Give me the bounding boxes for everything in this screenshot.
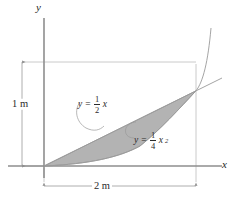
y-axis-label: y (36, 2, 41, 13)
equation-lower-exponent: 2 (165, 138, 168, 145)
equation-upper-variable: x (103, 100, 107, 110)
equation-lower-fraction: 1 4 (150, 131, 156, 150)
equation-upper-lhs: y (78, 100, 82, 110)
equation-label-parabola: y = 1 4 x2 (134, 130, 168, 150)
dimension-label-horizontal: 2 m (92, 181, 112, 192)
equation-upper-numerator: 1 (94, 95, 100, 104)
equation-upper-fraction: 1 2 (94, 95, 100, 114)
equation-label-line: y = 1 2 x (78, 94, 107, 114)
figure-container: y x 1 m 2 m y = 1 2 x y = 1 4 x2 (0, 0, 236, 206)
equation-upper-denominator: 2 (94, 104, 100, 114)
equation-upper-equals: = (84, 100, 91, 110)
equation-lower-denominator: 4 (150, 140, 156, 150)
equation-lower-numerator: 1 (150, 131, 156, 140)
equation-lower-lhs: y (134, 136, 138, 146)
dimension-label-vertical: 1 m (10, 99, 30, 110)
equation-lower-equals: = (140, 136, 147, 146)
equation-lower-variable: x (159, 136, 163, 146)
figure-drawing (0, 0, 236, 206)
x-axis-label: x (222, 159, 227, 170)
